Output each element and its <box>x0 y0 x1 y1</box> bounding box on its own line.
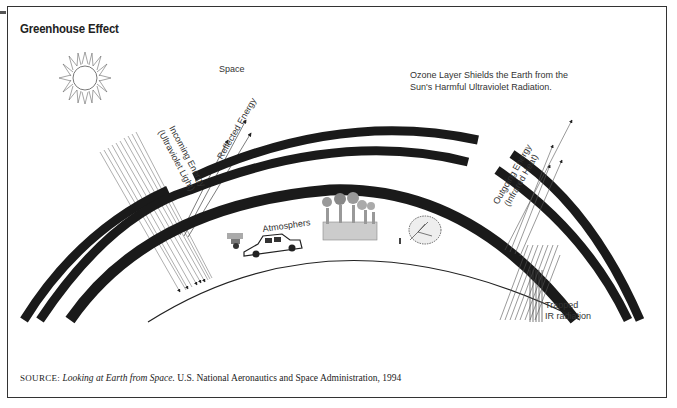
trapped-ir-label-line1: Trapped <box>545 300 578 310</box>
source-citation: SOURCE: Looking at Earth from Space. U.S… <box>20 373 401 383</box>
tree-icon <box>399 216 441 244</box>
smoke-icon <box>227 233 243 249</box>
source-prefix: SOURCE: <box>20 373 60 383</box>
sun-icon <box>59 52 111 104</box>
factory-icon <box>322 192 377 240</box>
source-title: Looking at Earth from Space. <box>62 373 174 383</box>
space-label: Space <box>219 64 245 74</box>
source-publisher: U.S. National Aeronautics and Space Admi… <box>175 373 401 383</box>
ozone-caption-line1: Ozone Layer Shields the Earth from the <box>410 70 568 80</box>
earth-surface <box>148 260 580 322</box>
greenhouse-diagram <box>0 0 677 408</box>
car-icon <box>244 234 302 258</box>
trapped-ir-label-line2: IR radiation <box>545 311 591 321</box>
ozone-caption-line2: Sun's Harmful Ultraviolet Radiation. <box>410 82 552 92</box>
